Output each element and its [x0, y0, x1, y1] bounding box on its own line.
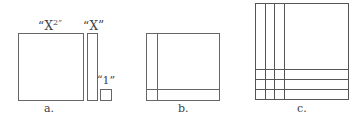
- caption-b: b.: [178, 102, 189, 115]
- panel-c: [256, 4, 349, 100]
- algebra-tiles-diagram: “X2” “X” “1” a. b. c.: [0, 0, 364, 116]
- unit-tile: [101, 90, 112, 101]
- caption-a: a.: [44, 102, 54, 115]
- x-tile: [88, 34, 98, 101]
- unit-label: “1”: [97, 74, 115, 87]
- caption-c: c.: [297, 102, 307, 115]
- panel-b: [147, 34, 220, 101]
- x-squared-tile: [19, 34, 84, 101]
- x-squared-label: “X2”: [38, 18, 62, 33]
- x-label: “X”: [83, 19, 104, 33]
- panel-a: [19, 34, 112, 101]
- outer-square: [256, 4, 349, 100]
